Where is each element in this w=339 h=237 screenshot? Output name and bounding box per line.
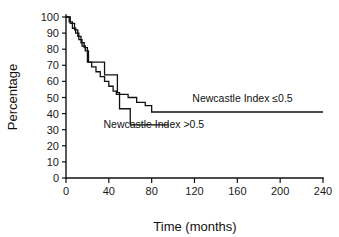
y-tick-label-80: 80 <box>47 43 59 55</box>
y-tick-label-10: 10 <box>47 156 59 168</box>
y-tick-label-60: 60 <box>47 75 59 87</box>
x-tick-label-80: 80 <box>146 185 158 197</box>
chart-svg: 0102030405060708090100 04080120160200240… <box>0 0 339 237</box>
kaplan-meier-chart: 0102030405060708090100 04080120160200240… <box>0 0 339 237</box>
x-tick-label-160: 160 <box>228 185 246 197</box>
y-tick-label-100: 100 <box>41 11 59 23</box>
y-tick-label-40: 40 <box>47 108 59 120</box>
y-axis-title: Percentage <box>5 64 20 131</box>
y-tick-label-30: 30 <box>47 124 59 136</box>
x-tick-label-0: 0 <box>63 185 69 197</box>
y-tick-label-0: 0 <box>53 172 59 184</box>
y-tick-label-50: 50 <box>47 92 59 104</box>
y-tick-label-20: 20 <box>47 140 59 152</box>
y-tick-label-70: 70 <box>47 59 59 71</box>
annotation-series-1: Newcastle Index ≤0.5 <box>192 92 292 104</box>
y-tick-label-90: 90 <box>47 27 59 39</box>
x-tick-label-200: 200 <box>271 185 289 197</box>
x-axis-title: Time (months) <box>153 219 236 234</box>
x-tick-label-40: 40 <box>103 185 115 197</box>
annotation-series-2: Newcastle Index >0.5 <box>103 118 204 130</box>
x-tick-label-120: 120 <box>185 185 203 197</box>
x-tick-label-240: 240 <box>314 185 332 197</box>
